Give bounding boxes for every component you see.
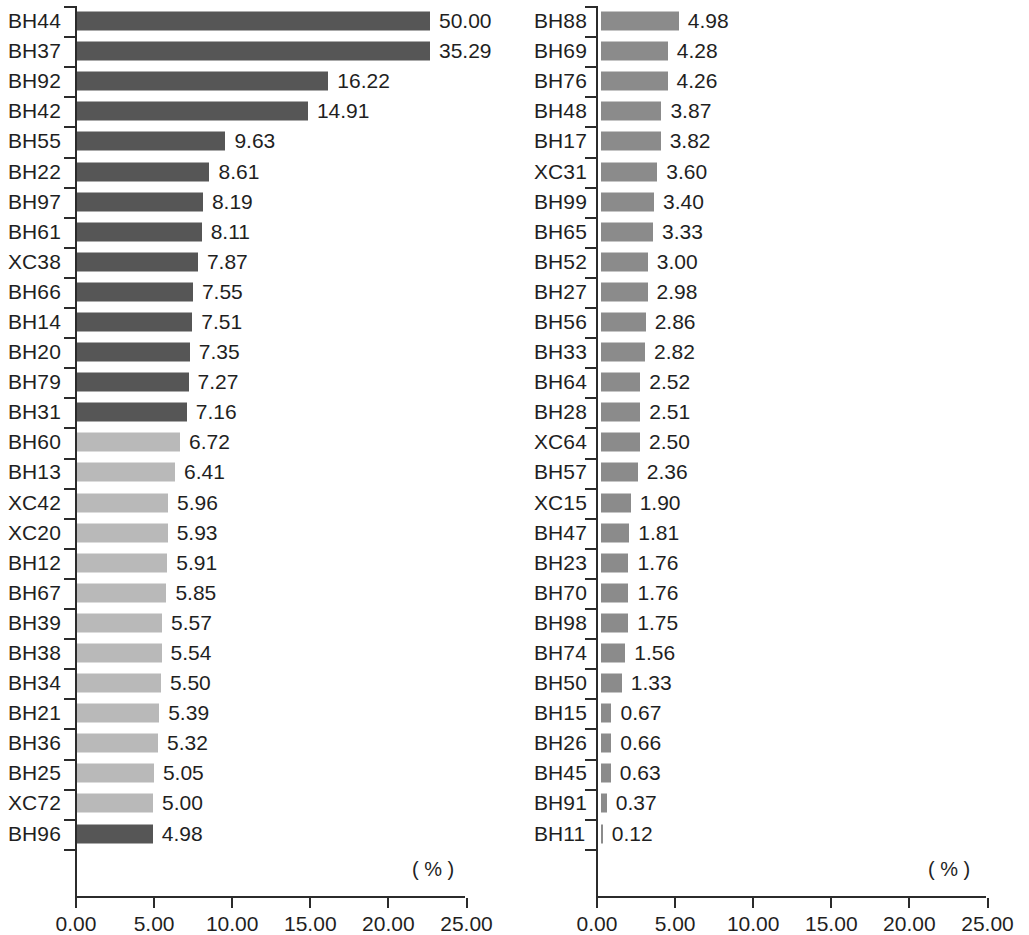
x-tick [908,898,910,908]
y-tick [585,548,597,550]
bar [601,102,661,121]
category-label: BH23 [520,551,587,575]
bar [75,794,153,813]
y-tick [585,96,597,98]
x-tick-label: 15.00 [284,912,337,935]
bar-plot-cell: 35.29 [62,36,520,66]
bar [601,523,629,542]
category-label: BH76 [520,69,587,93]
y-tick [64,6,76,8]
bar-plot-cell: 1.56 [587,638,1029,668]
bar-plot-cell: 5.00 [62,788,520,818]
category-label: BH22 [0,160,62,184]
category-label: BH92 [0,69,62,93]
x-tick-label: 15.00 [805,912,858,935]
bar-plot-cell: 50.00 [62,6,520,36]
value-label: 6.41 [184,460,225,484]
value-label: 5.54 [171,641,212,665]
bar-plot-cell: 3.00 [587,247,1029,277]
bar-plot-cell: 5.54 [62,638,520,668]
category-label: BH20 [0,340,62,364]
bar [601,734,611,753]
y-tick [64,247,76,249]
x-tick [466,898,468,908]
x-tick-label: 5.00 [134,912,175,935]
value-label: 5.91 [176,551,217,575]
category-label: BH64 [520,370,587,394]
y-tick [585,578,597,580]
value-label: 5.05 [163,761,204,785]
bar [601,343,645,362]
category-label: XC31 [520,160,587,184]
bar [75,704,159,723]
value-label: 5.50 [170,671,211,695]
bar [601,493,631,512]
bar [601,162,657,181]
x-axis-line [596,896,986,898]
x-tick-label: 10.00 [727,912,780,935]
category-label: BH11 [520,822,587,846]
value-label: 3.87 [670,99,711,123]
y-tick [64,488,76,490]
bar [601,583,628,602]
bar-plot-cell: 2.82 [587,337,1029,367]
y-tick [64,427,76,429]
bar-plot-cell: 0.67 [587,698,1029,728]
category-label: BH36 [0,731,62,755]
y-tick [64,187,76,189]
category-label: BH48 [520,99,587,123]
bar-row: BH4214.91 [0,96,520,126]
y-tick [64,668,76,670]
bar-row: BH385.54 [0,638,520,668]
bar-plot-cell: 2.51 [587,397,1029,427]
y-tick [64,36,76,38]
category-label: BH56 [520,310,587,334]
y-tick [585,728,597,730]
category-label: BH74 [520,641,587,665]
bar [75,192,203,211]
value-label: 2.51 [649,400,690,424]
value-label: 1.56 [634,641,675,665]
paired-bar-chart-figure: BH4450.00BH3735.29BH9216.22BH4214.91BH55… [0,0,1029,935]
category-label: XC72 [0,791,62,815]
value-label: 9.63 [234,129,275,153]
bar-plot-cell: 6.72 [62,427,520,457]
category-label: BH65 [520,220,587,244]
value-label: 0.63 [620,761,661,785]
bar-plot-cell: 3.60 [587,156,1029,186]
bar-plot-cell: 0.12 [587,819,1029,849]
y-tick [585,277,597,279]
value-label: 3.33 [662,220,703,244]
value-label: 16.22 [337,69,390,93]
bar-plot-cell: 4.28 [587,36,1029,66]
y-tick [64,217,76,219]
bar-plot-cell: 8.11 [62,217,520,247]
bar [75,644,162,663]
bar-plot-cell: 5.93 [62,518,520,548]
category-label: BH26 [520,731,587,755]
category-label: BH12 [0,551,62,575]
y-tick [585,6,597,8]
y-tick [585,157,597,159]
bar-plot-cell: 0.63 [587,758,1029,788]
y-tick [585,789,597,791]
bar [601,282,648,301]
value-label: 0.37 [616,791,657,815]
bar-row: BH978.19 [0,187,520,217]
value-label: 50.00 [439,9,492,33]
y-tick [585,638,597,640]
x-tick [231,898,233,908]
x-axis-line [75,896,465,898]
value-label: 1.81 [638,521,679,545]
y-tick [64,277,76,279]
bar-plot-cell: 5.05 [62,758,520,788]
bar-plot-cell: 5.96 [62,488,520,518]
category-label: BH28 [520,400,587,424]
y-tick [585,66,597,68]
category-label: BH61 [0,220,62,244]
bar-row: BH345.50 [0,668,520,698]
x-tick [153,898,155,908]
value-label: 7.35 [199,340,240,364]
bar [75,403,187,422]
bar-plot-cell: 14.91 [62,96,520,126]
